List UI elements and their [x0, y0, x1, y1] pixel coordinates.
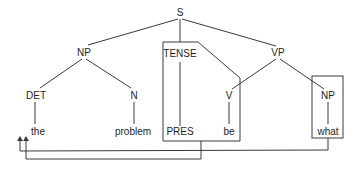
node-s: S [177, 7, 184, 18]
edge-vp-np [280, 59, 324, 89]
arrowhead-what [17, 136, 23, 141]
node-tense: TENSE [163, 48, 197, 59]
edge-s-np [88, 19, 178, 45]
node-n: N [130, 90, 137, 101]
arrowhead-pres [23, 136, 29, 141]
node-labels: S NP TENSE VP DET N V NP [26, 7, 335, 101]
node-v: V [226, 90, 233, 101]
leaf-be: be [223, 126, 235, 137]
leaf-what: what [316, 126, 338, 137]
syntax-tree-diagram: S NP TENSE VP DET N V NP the problem PRE… [0, 0, 359, 169]
node-np-subject: NP [77, 47, 91, 58]
edge-np-det [40, 59, 82, 88]
tree-edges [35, 19, 328, 126]
movement-arrows [17, 136, 328, 159]
node-vp: VP [271, 47, 285, 58]
leaf-pres: PRES [166, 126, 194, 137]
node-det: DET [26, 90, 46, 101]
leaf-problem: problem [115, 126, 151, 137]
movement-pres [26, 139, 201, 159]
edge-vp-v [232, 59, 276, 89]
edge-np-n [86, 59, 131, 88]
node-np-object: NP [321, 90, 335, 101]
leaf-the: the [31, 126, 45, 137]
movement-what [20, 138, 328, 151]
leaf-labels: the problem PRES be what [31, 126, 339, 137]
